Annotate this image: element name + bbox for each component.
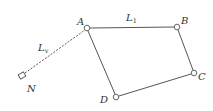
node-a [84, 25, 90, 31]
linkage-diagram: A B C D N L1 Lv [0, 0, 213, 111]
edge-d-a [88, 31, 115, 94]
label-n: N [26, 83, 37, 94]
label-lv: Lv [37, 42, 49, 55]
node-b [174, 24, 180, 30]
label-d: D [99, 94, 108, 105]
label-c: C [198, 71, 206, 82]
edge-n-a-dashed [25, 30, 85, 73]
node-n [18, 72, 26, 79]
edge-c-d [119, 74, 191, 96]
label-b: B [180, 15, 188, 26]
node-c [191, 70, 197, 76]
edge-a-b [90, 27, 174, 28]
edge-b-c [178, 30, 193, 70]
label-l1: L1 [125, 12, 137, 25]
node-d [113, 94, 119, 100]
label-a: A [76, 16, 84, 27]
